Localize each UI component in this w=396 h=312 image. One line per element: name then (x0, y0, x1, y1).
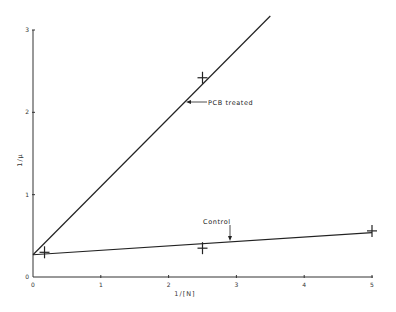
annotation-control: Control (203, 218, 232, 241)
x-tick-label: 4 (302, 281, 306, 288)
x-tick-label: 1 (99, 281, 103, 288)
x-tick-label: 2 (167, 281, 171, 288)
y-tick-label: 3 (25, 26, 29, 33)
annotation-pcb: PCB treated (186, 99, 253, 107)
x-tick-label: 0 (31, 281, 35, 288)
lineweaver-burk-chart: 0123 012345 1/μ 1/[N] PCB treated Contro… (0, 0, 396, 312)
annotation-pcb-text: PCB treated (208, 99, 253, 107)
x-axis-label: 1/[N] (174, 290, 195, 298)
annotation-control-text: Control (203, 218, 231, 226)
y-tick-label: 2 (25, 108, 29, 115)
x-tick-label: 5 (370, 281, 374, 288)
y-tick-label: 0 (25, 273, 29, 280)
x-tick-label: 3 (234, 281, 238, 288)
y-axis: 0123 (25, 26, 35, 280)
y-axis-label: 1/μ (16, 153, 24, 166)
series-control (33, 225, 377, 258)
series-pcb-treated (33, 16, 270, 255)
x-axis: 012345 (31, 275, 374, 288)
y-tick-label: 1 (25, 191, 29, 198)
